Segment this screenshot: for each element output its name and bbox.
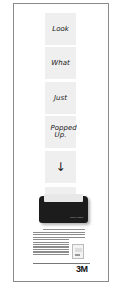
body-copy-line <box>33 251 69 252</box>
dispenser-label: Post-it • Notes <box>70 216 83 218</box>
body-copy-line <box>33 234 85 235</box>
dispenser-note-slot <box>44 194 83 202</box>
body-copy-line <box>33 242 69 243</box>
note-text: Just <box>54 95 67 102</box>
inset-product-image <box>72 244 84 259</box>
3m-logo: 3M <box>76 265 88 274</box>
note-text: What <box>51 60 69 67</box>
sticky-note-arrow: ↓ <box>45 151 76 183</box>
down-arrow-icon: ↓ <box>55 164 65 171</box>
sticky-note-just: Just <box>45 82 76 114</box>
note-dispenser-image: Post-it • Notes <box>39 196 88 223</box>
body-copy-line <box>33 249 69 250</box>
inset-detail <box>75 254 80 256</box>
sticky-note-popped-up: Popped Up. <box>45 116 76 148</box>
body-copy-line <box>33 239 69 240</box>
body-copy-line <box>33 237 85 238</box>
note-text: Look <box>52 26 69 33</box>
body-copy-line <box>33 232 85 233</box>
sticky-note-what: What <box>45 47 76 79</box>
inset-detail <box>75 248 82 252</box>
sticky-note-look: Look <box>45 13 76 45</box>
body-copy-line <box>43 229 85 230</box>
body-copy-line <box>33 246 69 247</box>
body-copy-line <box>33 254 69 255</box>
note-text: Popped Up. <box>51 125 71 139</box>
body-copy-line <box>33 244 69 245</box>
